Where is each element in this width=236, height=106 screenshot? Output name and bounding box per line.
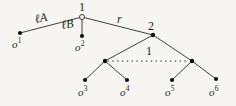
node-label-root: 1 <box>79 1 85 13</box>
node-internal-right <box>190 59 194 63</box>
leaf-sup-o3: 3 <box>84 84 88 93</box>
leaf-sup-o1: 1 <box>18 36 22 45</box>
leaf-sup-o2: 2 <box>81 39 85 48</box>
leaf-sup-o5: 5 <box>171 84 175 93</box>
edge-node2-to-internal-right <box>153 35 192 61</box>
leaf-base-o5: o <box>165 86 171 98</box>
node-2 <box>151 33 155 37</box>
edge-internal-left-to-o4 <box>105 61 127 80</box>
leaf-base-o6: o <box>209 86 215 98</box>
tree-diagram-figure: 1 2 1 ℓA ℓB r o1 o2 o3 o4 o5 o6 <box>0 0 236 106</box>
leaf-dot-o1 <box>18 31 22 35</box>
dotted-link-label: 1 <box>146 45 152 57</box>
edge-internal-right-to-o5 <box>172 61 192 80</box>
leaf-base-o1: o <box>12 38 18 50</box>
node-internal-left <box>103 59 107 63</box>
leaf-label-o6: o6 <box>209 85 219 98</box>
leaf-sup-o6: 6 <box>215 84 219 93</box>
edge-internal-left-to-o3 <box>85 61 105 80</box>
edge-label-mid: ℓB <box>60 17 74 31</box>
leaf-base-o2: o <box>75 41 81 53</box>
edge-label-right: r <box>117 13 122 25</box>
leaf-dot-o6 <box>214 77 218 81</box>
leaf-base-o4: o <box>120 86 126 98</box>
node-root <box>80 15 85 20</box>
leaf-sup-o4: 4 <box>126 84 130 93</box>
leaf-dot-o5 <box>170 78 174 82</box>
leaf-label-o4: o4 <box>120 85 130 98</box>
leaf-label-o2: o2 <box>75 40 85 53</box>
node-label-2: 2 <box>148 20 154 32</box>
leaf-dot-o3 <box>83 78 87 82</box>
leaf-label-o3: o3 <box>78 85 88 98</box>
edge-internal-right-to-o6 <box>192 61 216 79</box>
leaf-label-o1: o1 <box>12 37 22 50</box>
leaf-base-o3: o <box>78 86 84 98</box>
leaf-label-o5: o5 <box>165 85 175 98</box>
leaf-dot-o4 <box>125 78 129 82</box>
leaf-dot-o2 <box>80 34 84 38</box>
edge-label-left: ℓA <box>34 11 48 25</box>
